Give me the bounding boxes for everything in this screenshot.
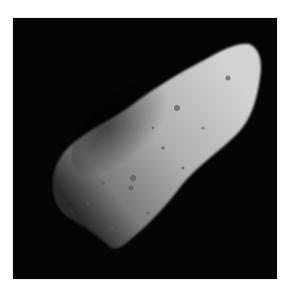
asteroid-body — [53, 44, 261, 249]
asteroid-svg — [13, 18, 277, 279]
asteroid-photo — [13, 18, 277, 279]
